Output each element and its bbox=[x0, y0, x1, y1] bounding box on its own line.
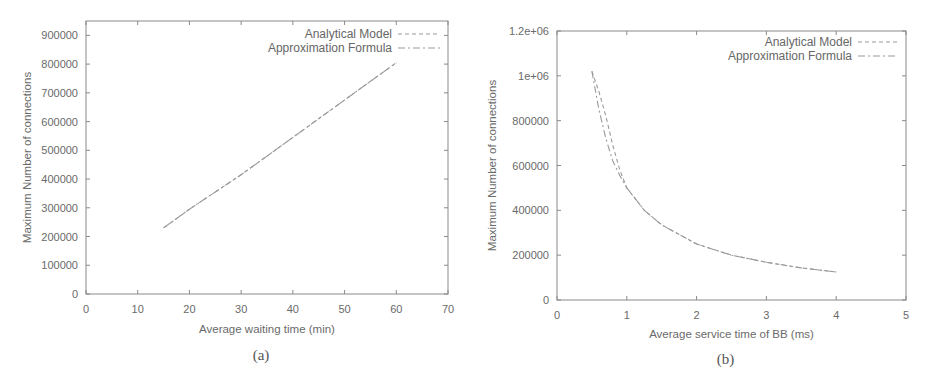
legend-label: Approximation Formula bbox=[728, 49, 852, 63]
y-tick-label: 100000 bbox=[41, 259, 78, 271]
y-tick-label: 1.2e+06 bbox=[509, 25, 549, 37]
y-tick-label: 900000 bbox=[41, 29, 78, 41]
x-tick-label: 40 bbox=[287, 303, 299, 315]
legend-label: Analytical Model bbox=[765, 35, 852, 49]
x-tick-label: 5 bbox=[903, 309, 909, 321]
x-tick-label: 20 bbox=[183, 303, 195, 315]
x-tick-label: 2 bbox=[694, 309, 700, 321]
figure-caption: (a) bbox=[253, 347, 270, 364]
plot-frame bbox=[557, 31, 906, 300]
legend-label: Approximation Formula bbox=[268, 41, 392, 55]
figure-caption: (b) bbox=[717, 351, 735, 368]
x-tick-label: 0 bbox=[83, 303, 89, 315]
x-tick-label: 1 bbox=[624, 309, 630, 321]
y-tick-label: 0 bbox=[72, 288, 78, 300]
y-tick-label: 300000 bbox=[41, 202, 78, 214]
y-tick-label: 400000 bbox=[512, 204, 549, 216]
y-tick-label: 800000 bbox=[41, 58, 78, 70]
chart-panel-a: 0100000200000300000400000500000600000700… bbox=[0, 0, 460, 388]
x-tick-label: 10 bbox=[132, 303, 144, 315]
y-axis-title: Maximum Number of connections bbox=[21, 72, 33, 244]
series-line-0 bbox=[592, 71, 836, 272]
y-tick-label: 400000 bbox=[41, 173, 78, 185]
chart-panel-b: 02000004000006000008000001e+061.2e+06012… bbox=[460, 0, 936, 388]
chart-b-canvas: 02000004000006000008000001e+061.2e+06012… bbox=[460, 0, 936, 388]
x-tick-label: 3 bbox=[763, 309, 769, 321]
x-tick-label: 30 bbox=[235, 303, 247, 315]
legend-label: Analytical Model bbox=[305, 27, 392, 41]
x-tick-label: 50 bbox=[338, 303, 350, 315]
plot-frame bbox=[86, 21, 448, 294]
series-line-1 bbox=[592, 71, 836, 272]
x-tick-label: 4 bbox=[833, 309, 839, 321]
y-tick-label: 700000 bbox=[41, 87, 78, 99]
chart-a-canvas: 0100000200000300000400000500000600000700… bbox=[0, 0, 460, 388]
y-tick-label: 600000 bbox=[41, 116, 78, 128]
x-tick-label: 70 bbox=[442, 303, 454, 315]
y-tick-label: 500000 bbox=[41, 144, 78, 156]
y-axis-title: Maximum Number of connections bbox=[486, 80, 498, 252]
x-axis-title: Average waiting time (min) bbox=[199, 323, 335, 335]
y-tick-label: 600000 bbox=[512, 160, 549, 172]
x-axis-title: Average service time of BB (ms) bbox=[649, 328, 814, 340]
y-tick-label: 1e+06 bbox=[518, 70, 549, 82]
x-tick-label: 0 bbox=[554, 309, 560, 321]
y-tick-label: 200000 bbox=[41, 231, 78, 243]
y-tick-label: 0 bbox=[543, 294, 549, 306]
y-tick-label: 800000 bbox=[512, 115, 549, 127]
y-tick-label: 200000 bbox=[512, 249, 549, 261]
x-tick-label: 60 bbox=[390, 303, 402, 315]
